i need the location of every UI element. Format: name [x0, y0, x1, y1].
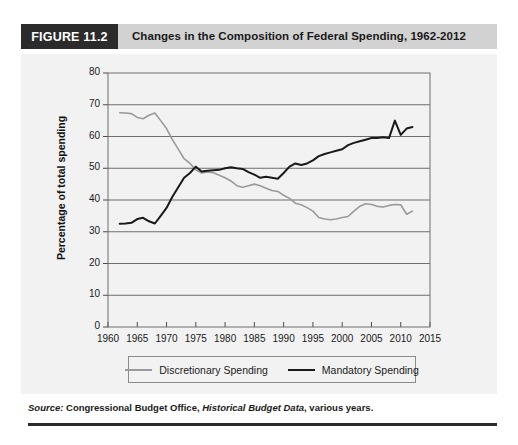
figure-number-badge: FIGURE 11.2 — [21, 24, 118, 49]
bottom-rule — [28, 423, 497, 426]
x-tick-marks — [108, 322, 430, 327]
series-line-discretionary — [120, 113, 413, 220]
y-tick-label: 50 — [74, 161, 100, 172]
legend-item-discretionary: Discretionary Spending — [125, 364, 268, 376]
x-tick-label: 2015 — [410, 333, 450, 344]
source-label: Source: — [28, 402, 63, 413]
chart-panel: Percentage of total spending 01020304050… — [21, 54, 497, 394]
figure-header-bar: FIGURE 11.2 Changes in the Composition o… — [21, 24, 497, 49]
y-tick-label: 20 — [74, 257, 100, 268]
y-tick-label: 70 — [74, 98, 100, 109]
chart-legend: Discretionary Spending Mandatory Spendin… — [128, 356, 416, 383]
gridlines — [108, 105, 430, 296]
y-tick-label: 30 — [74, 225, 100, 236]
source-publication: Historical Budget Data — [202, 402, 304, 413]
y-tick-label: 80 — [74, 66, 100, 77]
legend-line-mandatory-icon — [288, 369, 315, 371]
legend-line-discretionary-icon — [125, 369, 152, 371]
source-agency: Congressional Budget Office, — [63, 402, 202, 413]
y-tick-label: 0 — [74, 320, 100, 331]
figure-title: Changes in the Composition of Federal Sp… — [132, 24, 466, 49]
y-tick-label: 10 — [74, 288, 100, 299]
source-suffix: , various years. — [304, 402, 373, 413]
legend-item-mandatory: Mandatory Spending — [288, 364, 419, 376]
figure-container: FIGURE 11.2 Changes in the Composition o… — [0, 0, 518, 445]
y-tick-label: 40 — [74, 193, 100, 204]
source-note: Source: Congressional Budget Office, His… — [28, 402, 373, 413]
legend-label-discretionary: Discretionary Spending — [159, 364, 268, 376]
y-tick-label: 60 — [74, 130, 100, 141]
legend-label-mandatory: Mandatory Spending — [322, 364, 419, 376]
y-tick-marks — [103, 73, 108, 327]
